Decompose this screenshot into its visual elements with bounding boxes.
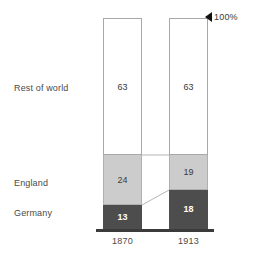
left-triangle-icon: [205, 12, 212, 22]
stacked-bar-chart: Rest of world England Germany 63 24 13 6…: [0, 0, 256, 261]
bar-1870-segment-england: 24: [103, 155, 142, 205]
bar-1913: 63 19 18: [169, 18, 208, 229]
x-axis-tick-1913: 1913: [169, 236, 208, 246]
bar-1870-value-england: 24: [117, 175, 127, 185]
top-marker: 100%: [205, 12, 238, 22]
legend-label-rest-of-world: Rest of world: [14, 83, 68, 94]
bar-1870-value-germany: 13: [117, 212, 127, 222]
bar-1913-segment-england: 19: [169, 155, 208, 190]
bar-1913-value-germany: 18: [183, 204, 193, 214]
legend-label-germany: Germany: [14, 208, 52, 219]
x-axis-tick-1870: 1870: [103, 236, 142, 246]
x-axis-baseline: [96, 229, 214, 232]
legend-label-england: England: [14, 178, 48, 189]
bar-1870-segment-rest-of-world: 63: [103, 18, 142, 155]
top-marker-label: 100%: [214, 12, 238, 22]
connector-germany-top: [142, 190, 169, 205]
bar-1913-value-england: 19: [183, 167, 193, 177]
bar-1913-segment-germany: 18: [169, 190, 208, 229]
bar-1870: 63 24 13: [103, 18, 142, 229]
bar-1913-value-rest-of-world: 63: [183, 82, 193, 92]
bar-1913-segment-rest-of-world: 63: [169, 18, 208, 155]
bar-1870-value-rest-of-world: 63: [117, 82, 127, 92]
bar-1870-segment-germany: 13: [103, 205, 142, 229]
